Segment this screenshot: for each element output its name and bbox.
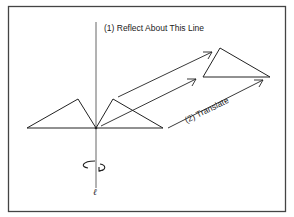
arrow-middle <box>101 79 196 126</box>
rotation-arrow-icon <box>83 161 104 171</box>
translated-triangle <box>203 48 270 77</box>
pivot-point <box>95 127 98 130</box>
original-triangle <box>27 99 96 128</box>
axis-label: ℓ <box>93 187 97 197</box>
translation-arrows <box>101 52 263 128</box>
arrow-top <box>118 52 212 97</box>
reflect-label: (1) Reflect About This Line <box>104 23 204 33</box>
frame-border <box>9 7 286 212</box>
